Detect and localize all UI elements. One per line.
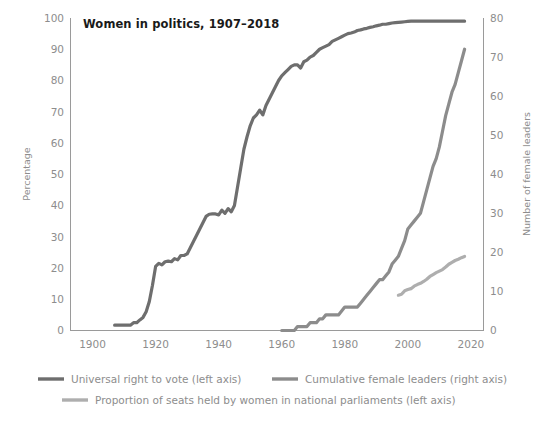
- y-tick-label: 50: [51, 168, 64, 180]
- x-tick-label: 2000: [394, 338, 421, 350]
- x-tick-label: 1980: [331, 338, 358, 350]
- y-tick-label: 100: [44, 12, 64, 24]
- y-tick-label: 90: [51, 43, 64, 55]
- chart-figure: Women in politics, 1907–2018 01020304050…: [0, 0, 557, 426]
- y2-tick-label: 40: [490, 168, 503, 180]
- y-tick-label: 70: [51, 106, 64, 118]
- y2-tick-label: 60: [490, 90, 503, 102]
- y-tick-label: 10: [51, 293, 64, 305]
- y2-tick-label: 70: [490, 51, 503, 63]
- y-tick-label: 30: [51, 231, 64, 243]
- y2-tick-label: 0: [490, 324, 497, 336]
- legend-label: Universal right to vote (left axis): [71, 373, 241, 385]
- chart-background: [0, 0, 557, 426]
- chart-title: Women in politics, 1907–2018: [83, 17, 279, 31]
- y2-tick-label: 20: [490, 246, 503, 258]
- x-tick-label: 2020: [458, 338, 485, 350]
- x-tick-label: 1920: [142, 338, 169, 350]
- right-axis-ticks: 01020304050607080: [490, 12, 503, 337]
- x-tick-label: 1940: [205, 338, 232, 350]
- y-tick-label: 40: [51, 199, 64, 211]
- x-tick-label: 1900: [79, 338, 106, 350]
- legend-label: Cumulative female leaders (right axis): [305, 373, 507, 385]
- y-tick-label: 80: [51, 74, 64, 86]
- y-tick-label: 0: [57, 324, 64, 336]
- legend-label: Proportion of seats held by women in nat…: [95, 394, 456, 406]
- y2-axis-title: Number of female leaders: [521, 112, 532, 236]
- y2-tick-label: 30: [490, 207, 503, 219]
- y2-tick-label: 80: [490, 12, 503, 24]
- y-tick-label: 20: [51, 262, 64, 274]
- x-tick-label: 1960: [268, 338, 295, 350]
- y2-tick-label: 50: [490, 129, 503, 141]
- y2-tick-label: 10: [490, 285, 503, 297]
- y-tick-label: 60: [51, 137, 64, 149]
- y-axis-title: Percentage: [21, 147, 32, 201]
